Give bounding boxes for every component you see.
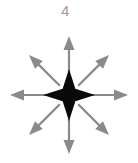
arrow-up-right-icon <box>77 55 109 87</box>
arrow-down-right-icon <box>77 103 109 135</box>
arrow-down-left-icon <box>29 103 61 135</box>
arrow-up-left-icon <box>29 55 61 87</box>
radiating-arrows-diagram <box>0 0 138 163</box>
figure-container: 4 <box>0 0 138 163</box>
